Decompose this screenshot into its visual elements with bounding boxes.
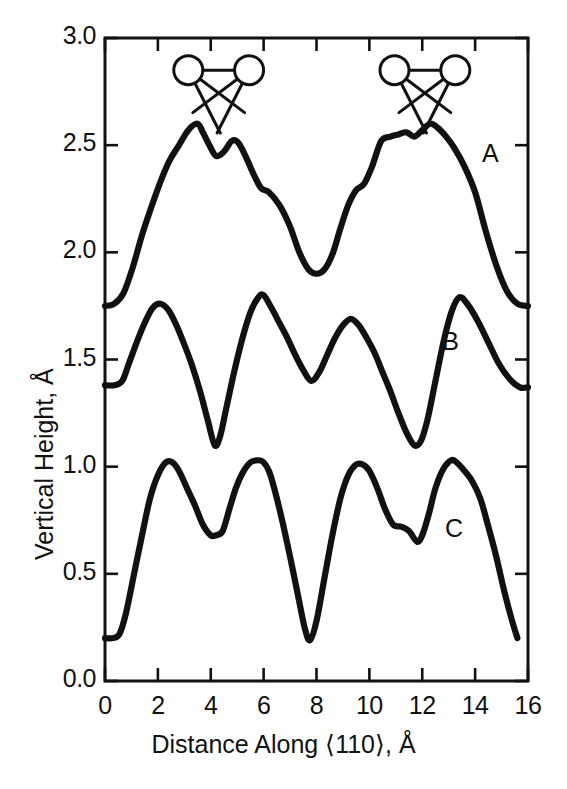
x-tick-label: 2 (138, 691, 178, 720)
curve-label-b: B (442, 327, 459, 356)
dimer-schematics (174, 56, 470, 133)
y-tick-label: 0.0 (38, 664, 96, 693)
dimer-atom-circle (380, 56, 409, 85)
x-axis-label: Distance Along ⟨110⟩, Å (0, 730, 567, 759)
x-tick-label: 4 (191, 691, 231, 720)
curve-b (105, 294, 528, 446)
dimer-left (174, 56, 264, 133)
y-tick-label: 0.5 (38, 557, 96, 586)
x-tick-label: 14 (455, 691, 495, 720)
figure-container: 0246810121416 0.00.51.01.52.02.53.0 ABC … (0, 0, 567, 789)
y-tick-label: 2.5 (38, 128, 96, 157)
dimer-right (380, 56, 470, 133)
dimer-atom-circle (441, 56, 470, 85)
curve-a (105, 124, 528, 306)
x-tick-label: 10 (349, 691, 389, 720)
dimer-atom-circle (174, 56, 203, 85)
axes-frame (105, 38, 528, 681)
dimer-atom-circle (235, 56, 264, 85)
curve-label-a: A (482, 139, 499, 168)
x-tick-label: 8 (297, 691, 337, 720)
y-axis-label: Vertical Height, Å (30, 368, 59, 560)
x-tick-label: 16 (508, 691, 548, 720)
data-curves (105, 124, 528, 641)
x-tick-label: 12 (402, 691, 442, 720)
curve-c (105, 460, 517, 641)
y-tick-label: 2.0 (38, 235, 96, 264)
y-tick-label: 3.0 (38, 21, 96, 50)
x-tick-label: 0 (85, 691, 125, 720)
curve-label-c: C (445, 514, 463, 543)
axis-ticks (105, 38, 528, 681)
x-tick-label: 6 (244, 691, 284, 720)
